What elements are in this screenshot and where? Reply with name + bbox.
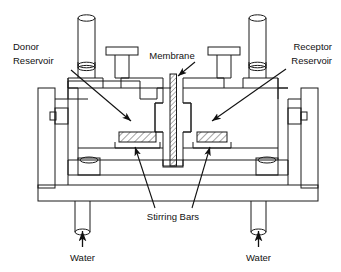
water-jacket-left (38, 88, 55, 188)
cell-body-left (68, 81, 171, 99)
donor-reservoir-line1: Donor (13, 41, 39, 52)
base-plate (38, 185, 318, 201)
water-right-label: Water (246, 252, 271, 263)
donor-reservoir-line2: Reservoir (13, 55, 54, 66)
diagram-canvas: Donor Reservoir Receptor Reservoir Membr… (0, 0, 341, 272)
stirring-bar-left (115, 132, 160, 148)
water-left-label: Water (70, 252, 95, 263)
leader-stirring-right (192, 147, 210, 208)
water-jacket-right (301, 88, 318, 188)
stopper-right (208, 47, 240, 78)
water-inlet-right (251, 201, 266, 235)
leader-membrane (178, 62, 195, 76)
stirring-bar-right (193, 132, 231, 148)
receptor-reservoir-line1: Receptor (293, 41, 332, 52)
cell-jacket-body (55, 99, 301, 185)
stopper-left (106, 47, 138, 78)
label-receptor-reservoir: Receptor Reservoir (291, 41, 332, 66)
cell-lower-body (68, 148, 288, 175)
leader-stirring-left (135, 147, 155, 208)
water-inlet-left (75, 201, 90, 235)
stirring-bars-label: Stirring Bars (147, 211, 200, 222)
sampling-port-right (249, 15, 266, 78)
membrane-label: Membrane (149, 50, 194, 61)
side-clamp-right (288, 108, 307, 124)
label-donor-reservoir: Donor Reservoir (13, 41, 54, 66)
sampling-port-left (78, 15, 95, 78)
membrane-strip (170, 74, 177, 166)
side-clamp-left (50, 108, 68, 124)
diffusion-cell-figure: Donor Reservoir Receptor Reservoir Membr… (0, 0, 341, 272)
receptor-reservoir-line2: Reservoir (291, 55, 332, 66)
